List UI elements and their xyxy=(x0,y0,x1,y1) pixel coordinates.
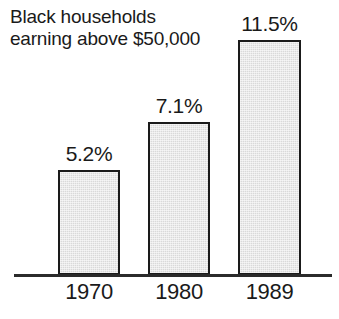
x-axis-line xyxy=(14,274,332,277)
bar-1970 xyxy=(58,170,120,275)
x-axis-tick-label-1980: 1980 xyxy=(138,279,220,305)
bar-chart: Black households earning above $50,000 5… xyxy=(0,0,339,319)
bar-value-label-1970: 5.2% xyxy=(50,142,128,166)
plot-area: 5.2% 7.1% 11.5% 1970 1980 1989 xyxy=(0,0,339,319)
x-axis-tick-label-1970: 1970 xyxy=(48,279,130,305)
x-axis-tick-label-1989: 1989 xyxy=(228,279,311,305)
bar-1989 xyxy=(238,40,301,275)
bar-value-label-1980: 7.1% xyxy=(140,94,218,118)
bar-value-label-1989: 11.5% xyxy=(228,12,311,36)
bar-1980 xyxy=(148,122,210,275)
